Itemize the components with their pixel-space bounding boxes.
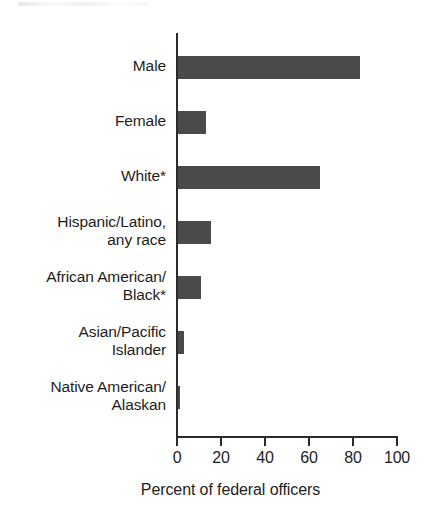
bar-female <box>178 111 206 134</box>
bar-rect <box>178 111 206 134</box>
category-label-line1: African American/ <box>46 268 166 285</box>
category-label-native-american-alaskan: Native American/ Alaskan <box>0 378 166 413</box>
category-label-line1: Male <box>133 57 166 74</box>
bar-white <box>178 166 320 189</box>
bar-rect <box>178 276 201 299</box>
category-label-line1: Female <box>115 112 166 129</box>
x-axis-title: Percent of federal officers <box>0 481 431 499</box>
x-axis-title-text: Percent of federal officers <box>111 481 320 499</box>
bar-rect <box>178 386 180 409</box>
bar-male <box>178 56 360 79</box>
category-label-line1: White* <box>121 167 166 184</box>
category-label-line2: Alaskan <box>0 396 166 414</box>
category-label-white: White* <box>0 167 166 185</box>
bar-african-american-black <box>178 276 201 299</box>
category-label-line2: Islander <box>0 341 166 359</box>
horizontal-bar-chart: Male Female White* Hispanic/Latino, any … <box>0 0 431 526</box>
category-label-asian-pacific-islander: Asian/Pacific Islander <box>0 323 166 358</box>
category-label-hispanic-latino: Hispanic/Latino, any race <box>0 213 166 248</box>
bar-rect <box>178 221 211 244</box>
x-tick-mark-40 <box>264 437 266 446</box>
category-label-african-american-black: African American/ Black* <box>0 268 166 303</box>
category-label-female: Female <box>0 112 166 130</box>
category-label-line1: Hispanic/Latino, <box>57 213 166 230</box>
x-tick-label-100: 100 <box>367 449 427 467</box>
bar-rect <box>178 166 320 189</box>
bar-hispanic-latino <box>178 221 211 244</box>
x-tick-mark-80 <box>352 437 354 446</box>
bar-asian-pacific-islander <box>178 331 184 354</box>
bar-native-american-alaskan <box>178 386 180 409</box>
x-axis-line <box>176 436 398 438</box>
category-label-line1: Asian/Pacific <box>79 323 166 340</box>
category-label-line2: any race <box>0 231 166 249</box>
x-tick-mark-60 <box>308 437 310 446</box>
bar-rect <box>178 331 184 354</box>
x-tick-mark-0 <box>176 437 178 446</box>
category-label-line1: Native American/ <box>50 378 166 395</box>
x-tick-mark-100 <box>396 437 398 446</box>
category-label-male: Male <box>0 57 166 75</box>
x-tick-mark-20 <box>220 437 222 446</box>
bar-rect <box>178 56 360 79</box>
category-label-line2: Black* <box>0 286 166 304</box>
